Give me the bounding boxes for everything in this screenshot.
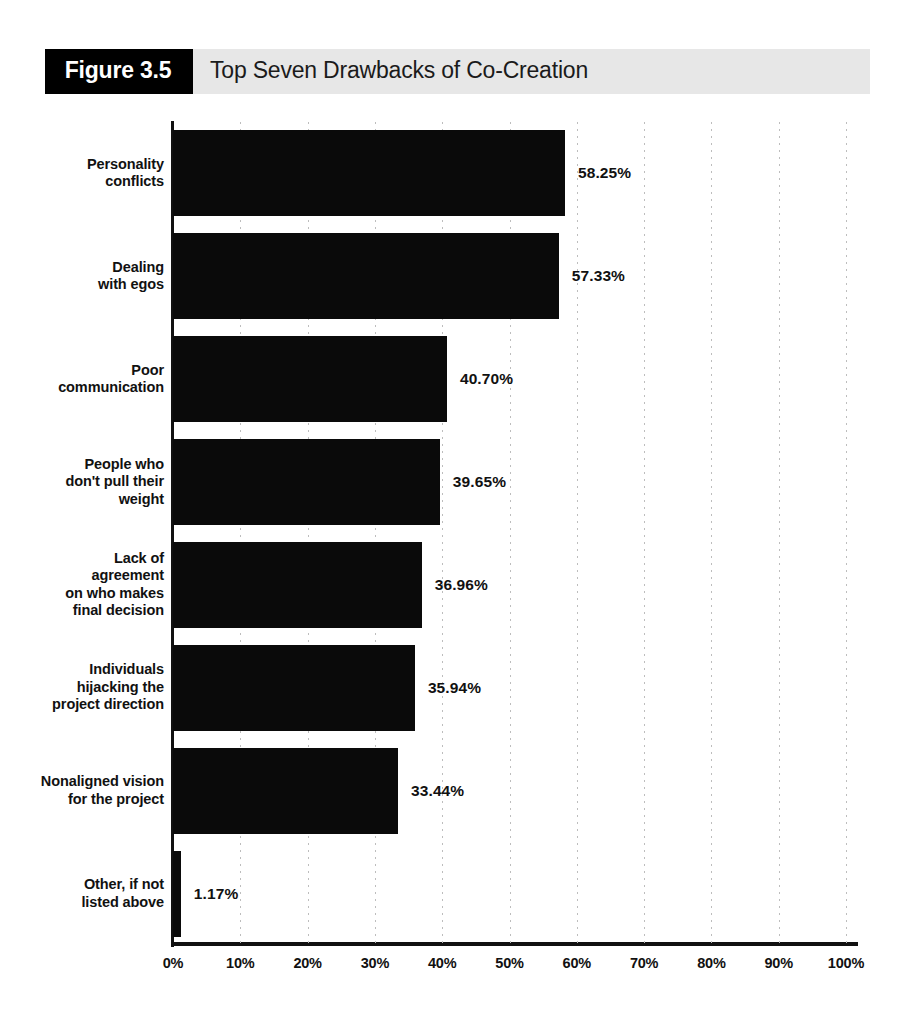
category-label: Dealing with egos <box>98 259 164 294</box>
bar-value-label: 39.65% <box>453 473 506 491</box>
value-axis-tick: 30% <box>361 955 389 971</box>
category-label: Lack of agreement on who makes final dec… <box>40 550 164 620</box>
bar-row: 57.33% <box>173 233 846 319</box>
bar-value-label: 1.17% <box>194 885 238 903</box>
bar <box>173 851 181 937</box>
value-axis-tick: 20% <box>293 955 321 971</box>
bar <box>173 748 398 834</box>
value-axis-tick-labels: 0%10%20%30%40%50%60%70%80%90%100% <box>173 955 846 979</box>
bar-value-label: 58.25% <box>578 164 631 182</box>
bar-row: 36.96% <box>173 542 846 628</box>
value-axis-tick: 10% <box>226 955 254 971</box>
bar-row: 35.94% <box>173 645 846 731</box>
bar <box>173 542 422 628</box>
bar <box>173 233 559 319</box>
bar <box>173 336 447 422</box>
category-label: Individuals hijacking the project direct… <box>52 661 164 714</box>
bar-row: 1.17% <box>173 851 846 937</box>
category-label: Nonaligned vision for the project <box>41 773 164 808</box>
category-label: People who don't pull their weight <box>66 456 165 509</box>
bar-row: 33.44% <box>173 748 846 834</box>
bar-row: 40.70% <box>173 336 846 422</box>
bar-value-label: 35.94% <box>428 679 481 697</box>
category-labels: Personality conflictsDealing with egosPo… <box>40 122 164 945</box>
figure-title: Top Seven Drawbacks of Co-Creation <box>193 49 588 94</box>
value-axis-tick: 0% <box>163 955 184 971</box>
bar-row: 58.25% <box>173 130 846 216</box>
bar-value-label: 57.33% <box>572 267 625 285</box>
bar-chart: Figure 3.5 Top Seven Drawbacks of Co-Cre… <box>0 0 902 1033</box>
bar <box>173 130 565 216</box>
bar-row: 39.65% <box>173 439 846 525</box>
value-axis-tick: 40% <box>428 955 456 971</box>
category-label: Poor communication <box>58 362 164 397</box>
bar <box>173 439 440 525</box>
category-label: Other, if not listed above <box>81 876 164 911</box>
value-axis-tick: 80% <box>697 955 725 971</box>
value-axis-tick: 50% <box>495 955 523 971</box>
value-axis-tick: 90% <box>764 955 792 971</box>
value-axis-tick: 100% <box>828 955 864 971</box>
category-label: Personality conflicts <box>87 156 164 191</box>
bar-value-label: 36.96% <box>435 576 488 594</box>
value-axis-tick: 70% <box>630 955 658 971</box>
bar <box>173 645 415 731</box>
figure-header: Figure 3.5 Top Seven Drawbacks of Co-Cre… <box>45 49 870 94</box>
gridline <box>846 122 847 945</box>
value-axis-tick: 60% <box>563 955 591 971</box>
bar-value-label: 33.44% <box>411 782 464 800</box>
plot-area: 58.25%57.33%40.70%39.65%36.96%35.94%33.4… <box>173 122 846 945</box>
figure-number-badge: Figure 3.5 <box>45 49 193 94</box>
bar-value-label: 40.70% <box>460 370 513 388</box>
